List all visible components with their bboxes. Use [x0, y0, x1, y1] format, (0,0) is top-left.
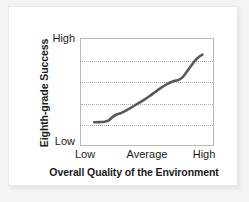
x-axis-tick-average: Average: [119, 148, 175, 161]
y-axis-title: Eighth-grade Success: [36, 38, 52, 148]
y-axis-tick-low: Low: [41, 135, 75, 147]
x-axis-title: Overall Quality of the Environment: [27, 166, 241, 178]
x-axis-tick-low: Low: [65, 148, 105, 161]
plot-area: [80, 38, 214, 146]
figure-card: Eighth-grade Success High Low Low Averag…: [8, 6, 238, 186]
data-line-chart: [81, 39, 213, 145]
x-axis-tick-high: High: [184, 148, 224, 161]
y-axis-tick-high: High: [41, 32, 75, 44]
figure-root: Eighth-grade Success High Low Low Averag…: [0, 0, 249, 202]
series-line-eighth-grade-success: [94, 55, 202, 123]
